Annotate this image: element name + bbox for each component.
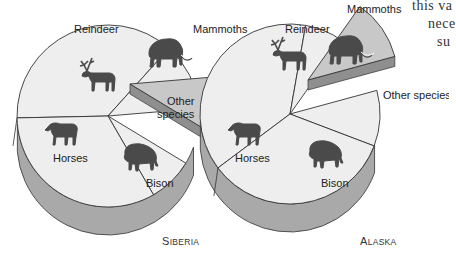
siberia-caption-initial: S: [162, 235, 170, 247]
siberia-reindeer-label: Reindeer: [74, 23, 119, 35]
alaska-mammoths-label: Mammoths: [347, 3, 402, 15]
body-text-line-2: nece: [428, 16, 456, 32]
siberia-pie: [13, 25, 221, 235]
alaska-reindeer-label: Reindeer: [285, 23, 330, 35]
pies-group: [13, 6, 395, 235]
siberia-other-label-line2: species: [157, 108, 195, 120]
alaska-other-label: Other species: [383, 89, 449, 101]
alaska-horses-label: Horses: [235, 152, 270, 164]
alaska-pie: [200, 6, 395, 232]
body-text-line-3: su: [437, 34, 450, 50]
siberia-bison-label: Bison: [146, 177, 174, 189]
siberia-side-seam: [13, 118, 17, 146]
siberia-caption-rest: IBERIA: [170, 237, 200, 247]
siberia-mammoths-label: Mammoths: [193, 23, 248, 35]
alaska-bison-label: Bison: [321, 177, 349, 189]
siberia-horses-label: Horses: [53, 152, 88, 164]
siberia-caption: SIBERIA: [162, 235, 199, 247]
siberia-other-label-line1: Other: [167, 95, 195, 107]
alaska-caption: ALASKA: [360, 235, 397, 247]
alaska-caption-rest: LASKA: [368, 237, 397, 247]
body-text-line-1: this va: [412, 0, 452, 14]
